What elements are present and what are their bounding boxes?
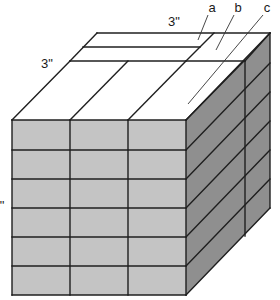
block-cube-diagram: abc3"3"" Cube built from 3" x 3" blocks:… — [0, 0, 280, 300]
dim-left: 3" — [41, 56, 53, 71]
dim-side: " — [0, 198, 5, 213]
label-c: c — [264, 0, 271, 15]
label-b: b — [234, 0, 241, 15]
dim-top: 3" — [168, 14, 180, 29]
diagram-canvas: abc3"3"" — [0, 0, 280, 300]
label-a: a — [208, 0, 216, 15]
